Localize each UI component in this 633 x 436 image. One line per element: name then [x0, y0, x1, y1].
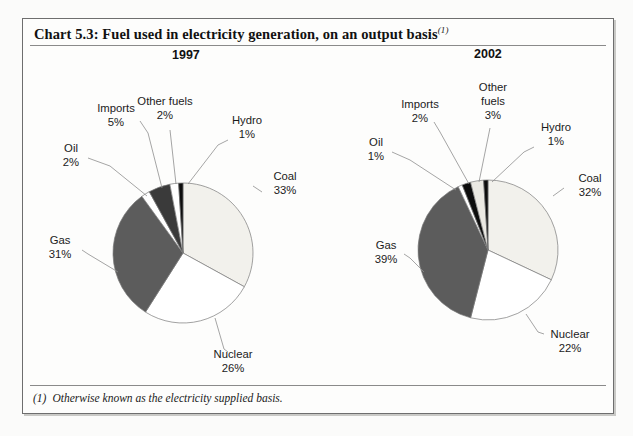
footnote-text: Otherwise known as the electricity suppl… — [52, 392, 282, 404]
title-divider — [30, 45, 606, 46]
footnote-divider — [30, 385, 606, 386]
chart-page: Chart 5.3: Fuel used in electricity gene… — [0, 0, 633, 436]
page-title: Chart 5.3: Fuel used in electricity gene… — [34, 25, 449, 43]
title-footnote-mark: (1) — [438, 25, 449, 35]
panel-title-1997: 1997 — [172, 48, 200, 62]
chart-title-text: Chart 5.3: Fuel used in electricity gene… — [34, 26, 438, 42]
footnote: (1)Otherwise known as the electricity su… — [33, 392, 283, 404]
panel-title-2002: 2002 — [474, 47, 502, 61]
footnote-mark: (1) — [33, 392, 46, 404]
chart-frame — [22, 18, 614, 414]
